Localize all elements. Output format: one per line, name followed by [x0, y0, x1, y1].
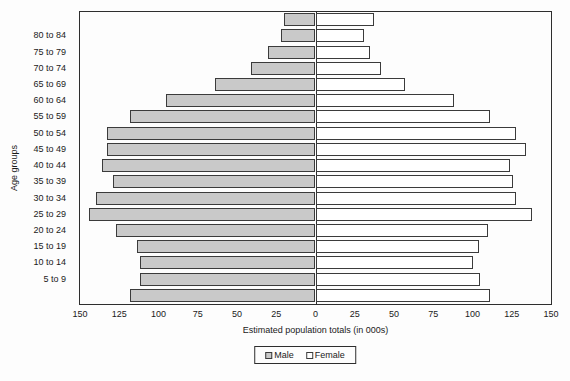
- age-group-label: 75 to 79: [33, 47, 66, 57]
- x-tick-label: 150: [72, 309, 87, 319]
- legend-entry-male: Male: [265, 350, 294, 360]
- x-tick-label: 100: [151, 309, 166, 319]
- x-axis-title: Estimated population totals (in 000s): [79, 325, 552, 335]
- x-tick-label: 100: [465, 309, 480, 319]
- legend-label-female: Female: [315, 350, 345, 360]
- age-group-label: 40 to 44: [33, 160, 66, 170]
- female-bar: [316, 240, 479, 253]
- population-pyramid-figure: Age groups 80 to 8475 to 7970 to 7465 to…: [0, 0, 570, 381]
- age-group-label: 80 to 84: [33, 30, 66, 40]
- age-group-label: 70 to 74: [33, 63, 66, 73]
- female-bar: [316, 46, 371, 59]
- male-bar: [140, 273, 316, 286]
- age-group-label: 5 to 9: [43, 274, 66, 284]
- age-group-label: 45 to 49: [33, 144, 66, 154]
- female-bar: [316, 13, 374, 26]
- x-tick-label: 0: [313, 309, 318, 319]
- male-bar: [140, 256, 316, 269]
- age-group-label: 55 to 59: [33, 111, 66, 121]
- x-tick-label: 75: [428, 309, 438, 319]
- female-bar: [316, 110, 490, 123]
- age-group-label: 20 to 24: [33, 225, 66, 235]
- male-bar: [166, 94, 315, 107]
- male-bar: [107, 143, 316, 156]
- male-bar: [251, 62, 315, 75]
- plot-area: [79, 11, 552, 305]
- male-bar: [215, 78, 315, 91]
- female-bar: [316, 175, 514, 188]
- female-bar: [316, 159, 511, 172]
- female-bar: [316, 78, 405, 91]
- male-bar: [89, 208, 315, 221]
- age-group-label: 65 to 69: [33, 79, 66, 89]
- female-bar: [316, 143, 526, 156]
- age-group-label: 15 to 19: [33, 241, 66, 251]
- x-tick-label: 25: [350, 309, 360, 319]
- legend-entry-female: Female: [306, 350, 345, 360]
- female-bar: [316, 224, 489, 237]
- age-group-label: 35 to 39: [33, 176, 66, 186]
- male-bar: [268, 46, 315, 59]
- x-tick-label: 50: [389, 309, 399, 319]
- x-tick-label: 75: [193, 309, 203, 319]
- x-tick-label: 125: [504, 309, 519, 319]
- male-swatch-icon: [265, 352, 272, 359]
- female-bar: [316, 289, 490, 302]
- male-bar: [96, 192, 316, 205]
- female-bar: [316, 273, 481, 286]
- age-group-axis-labels: 80 to 8475 to 7970 to 7465 to 6960 to 64…: [0, 11, 73, 305]
- age-group-label: 50 to 54: [33, 128, 66, 138]
- age-group-label: 60 to 64: [33, 95, 66, 105]
- female-bar: [316, 127, 517, 140]
- female-bar: [316, 29, 365, 42]
- female-swatch-icon: [306, 352, 313, 359]
- female-bar: [316, 62, 382, 75]
- male-bar: [284, 13, 315, 26]
- female-bar: [316, 256, 473, 269]
- male-bar: [116, 224, 315, 237]
- female-bar: [316, 192, 517, 205]
- male-bar: [281, 29, 316, 42]
- male-bar: [130, 110, 315, 123]
- male-bar: [102, 159, 316, 172]
- x-tick-label: 25: [271, 309, 281, 319]
- x-tick-label: 150: [543, 309, 558, 319]
- legend-label-male: Male: [274, 350, 294, 360]
- legend-box: Male Female: [254, 346, 356, 364]
- x-axis-tick-labels: 1501251007550250255075100125150: [0, 309, 570, 321]
- male-bar: [113, 175, 316, 188]
- age-group-label: 10 to 14: [33, 257, 66, 267]
- male-bar: [107, 127, 316, 140]
- age-group-label: 30 to 34: [33, 193, 66, 203]
- male-bar: [137, 240, 316, 253]
- x-tick-label: 50: [232, 309, 242, 319]
- female-bar: [316, 94, 454, 107]
- age-group-label: 25 to 29: [33, 209, 66, 219]
- male-bar: [130, 289, 315, 302]
- female-bar: [316, 208, 533, 221]
- x-tick-label: 125: [112, 309, 127, 319]
